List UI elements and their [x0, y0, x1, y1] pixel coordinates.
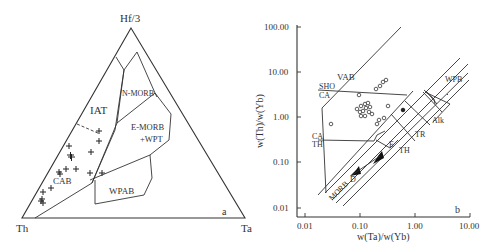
field-label-th-mid: TH — [312, 140, 323, 149]
figure: Hf/3 Th Ta IAT CAB N-MORB E-MORB +WPT WP… — [0, 0, 490, 251]
arrow-shaft — [352, 156, 380, 175]
y-axis-label: w(Th)/w(Yb) — [254, 94, 266, 148]
scatter-plot-b: 100.00 10.00 1.00 0.10 0.01 0.01 0.10 1.… — [254, 22, 480, 243]
y-tick-1: 1.00 — [273, 112, 289, 122]
apex-label-th: Th — [16, 222, 29, 234]
field-boundaries-b — [318, 27, 469, 206]
x-ticks — [305, 213, 470, 217]
panel-label-a: a — [222, 206, 227, 217]
field-label-morb: MORB — [327, 179, 350, 202]
field-label-th-low: TH — [399, 146, 410, 155]
field-label-emorb: E-MORB — [131, 122, 164, 132]
y-tick-100: 100.00 — [264, 22, 289, 32]
y-tick-0.1: 0.10 — [273, 157, 289, 167]
panel-label-b: b — [455, 204, 460, 215]
boundary-inner — [92, 130, 115, 183]
field-label-ca-top: CA — [319, 91, 330, 100]
boundary-iat-cab-dashed — [77, 124, 100, 134]
field-label-vab: VAB — [337, 72, 355, 82]
x-tick-0.01: 0.01 — [297, 221, 313, 231]
x-axis-label: w(Ta)/w(Yb) — [357, 231, 410, 243]
field-label-wpt: +WPT — [140, 134, 164, 144]
apex-label-hf3: Hf/3 — [120, 12, 141, 24]
field-label-wpb: WPB — [445, 75, 462, 84]
field-label-d: D — [350, 175, 356, 184]
field-label-tr: TR — [415, 130, 426, 139]
field-label-wpab: WPAB — [109, 186, 134, 196]
ternary-plot-a: Hf/3 Th Ta IAT CAB N-MORB E-MORB +WPT WP… — [16, 12, 252, 234]
field-label-sho: SHO — [319, 82, 335, 91]
y-tick-10: 10.00 — [268, 67, 289, 77]
field-label-nmorb: N-MORB — [122, 89, 154, 98]
apex-label-ta: Ta — [241, 222, 252, 234]
x-tick-10: 10.00 — [459, 221, 480, 231]
x-tick-0.1: 0.10 — [352, 221, 368, 231]
sample-markers-b — [329, 78, 405, 126]
field-label-iat: IAT — [90, 104, 107, 116]
field-label-e: E — [389, 140, 394, 149]
boundary-wpab — [95, 155, 152, 204]
field-label-alk: Alk — [432, 116, 444, 125]
y-tick-0.01: 0.01 — [273, 203, 289, 213]
field-label-cab: CAB — [53, 176, 72, 186]
y-ticks — [297, 27, 301, 208]
x-tick-1: 1.00 — [407, 221, 423, 231]
